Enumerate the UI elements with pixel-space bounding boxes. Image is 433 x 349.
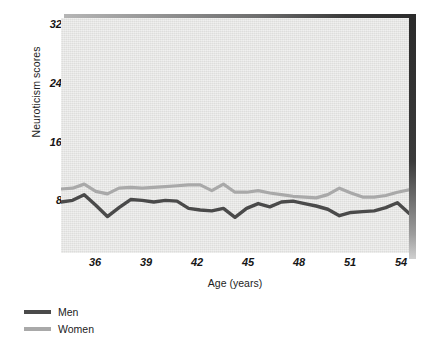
series-line-men	[61, 195, 409, 218]
x-tick-label: 54	[384, 256, 418, 269]
x-tick-label: 36	[78, 256, 112, 269]
chart-legend: Men Women	[24, 303, 224, 337]
x-tick-label: 45	[231, 256, 265, 269]
legend-swatch-men-icon	[24, 310, 51, 314]
legend-swatch-women-icon	[24, 327, 51, 331]
legend-label-women: Women	[58, 323, 94, 335]
y-tick-label: 8	[36, 195, 62, 206]
legend-item-women: Women	[24, 320, 224, 337]
line-chart-svg	[61, 18, 409, 253]
legend-item-men: Men	[24, 303, 224, 320]
plot-area	[61, 18, 409, 253]
x-tick-label: 48	[282, 256, 316, 269]
y-axis-tick-labels: 32 24 16 8	[36, 0, 62, 260]
plot-frame-right-shadow	[409, 14, 416, 259]
x-tick-label: 51	[333, 256, 367, 269]
chart-figure: Neuroticism scores 32 24 16 8 36 39 42 4…	[0, 0, 433, 349]
series-line-women	[61, 184, 409, 198]
x-tick-label: 42	[180, 256, 214, 269]
x-axis-title: Age (years)	[61, 277, 409, 289]
y-tick-label: 24	[36, 78, 62, 89]
y-tick-label: 16	[36, 137, 62, 148]
x-tick-label: 39	[129, 256, 163, 269]
x-axis-tick-labels: 36 39 42 45 48 51 54	[0, 256, 433, 272]
y-tick-label: 32	[36, 19, 62, 30]
legend-label-men: Men	[58, 306, 78, 318]
